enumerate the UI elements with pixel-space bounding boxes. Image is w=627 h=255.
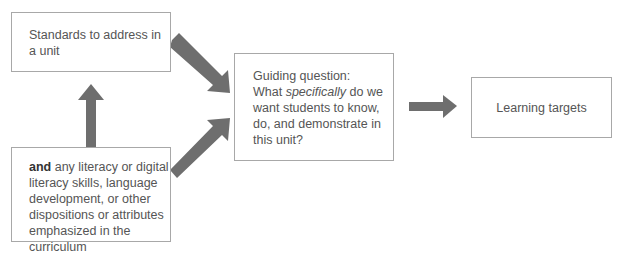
guiding-pre: What [253, 85, 286, 99]
learning-targets-box: Learning targets [471, 77, 612, 138]
literacy-box: and any literacy or digital literacy ski… [11, 147, 171, 242]
arrow-up-icon [78, 84, 104, 147]
guiding-label: Guiding question: [253, 68, 393, 84]
targets-text: Learning targets [496, 100, 586, 116]
arrow-diagonal-down-icon [170, 33, 230, 93]
literacy-text: any literacy or digital literacy skills,… [29, 160, 169, 254]
arrow-right-icon [409, 95, 457, 118]
guiding-question-box: Guiding question: What specifically do w… [234, 53, 394, 161]
standards-box: Standards to address in a unit [11, 12, 171, 72]
standards-text: Standards to address in a unit [29, 28, 161, 58]
literacy-lead: and [29, 160, 51, 174]
arrow-diagonal-up-icon [170, 118, 230, 178]
guiding-emphasis: specifically [286, 85, 346, 99]
